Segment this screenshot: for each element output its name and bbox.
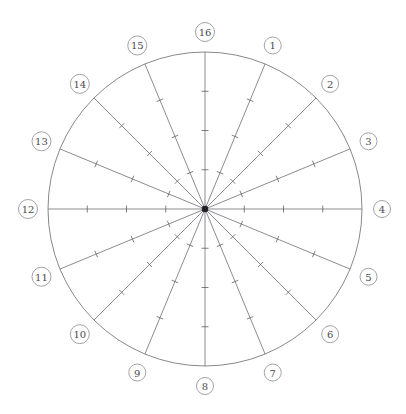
sector-label-14: 14 bbox=[73, 79, 86, 90]
sector-label-13: 13 bbox=[35, 136, 48, 147]
center-hub-group bbox=[202, 206, 208, 212]
sector-label-15: 15 bbox=[131, 40, 144, 51]
figure-canvas: 12345678910111213141516 bbox=[0, 0, 406, 414]
radial-compass-diagram: 12345678910111213141516 bbox=[0, 0, 406, 414]
sector-label-3: 3 bbox=[365, 136, 371, 147]
sector-label-12: 12 bbox=[22, 204, 35, 215]
sector-label-10: 10 bbox=[73, 329, 86, 340]
sector-label-2: 2 bbox=[327, 79, 333, 90]
sector-label-11: 11 bbox=[35, 272, 48, 283]
sector-label-9: 9 bbox=[134, 368, 140, 379]
sector-label-6: 6 bbox=[327, 329, 333, 340]
sector-label-1: 1 bbox=[270, 40, 276, 51]
sector-label-16: 16 bbox=[199, 27, 212, 38]
sector-label-4: 4 bbox=[379, 204, 385, 215]
center-hub bbox=[202, 206, 208, 212]
sector-label-7: 7 bbox=[270, 368, 276, 379]
sector-label-5: 5 bbox=[365, 272, 371, 283]
sector-label-8: 8 bbox=[202, 381, 208, 392]
